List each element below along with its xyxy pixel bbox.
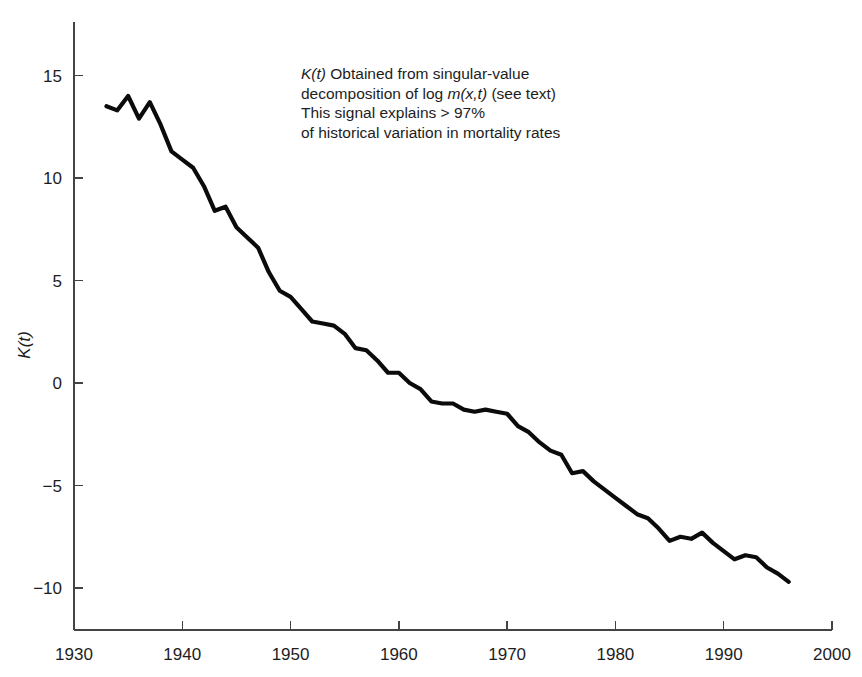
y-tick-label: 5 xyxy=(53,272,62,291)
y-axis-title: K(t) xyxy=(15,331,34,358)
x-tick-label: 2000 xyxy=(813,645,851,664)
annotation-line-2: decomposition of log m(x,t) (see text) xyxy=(301,84,631,104)
x-tick-label: 1960 xyxy=(380,645,418,664)
x-axis: 19301940195019601970198019902000 xyxy=(55,621,851,664)
y-tick-label: 15 xyxy=(43,67,62,86)
annotation-line-2-post: (see text) xyxy=(487,85,556,102)
annotation-line-1-rest: Obtained from singular-value xyxy=(326,65,529,82)
data-series-group xyxy=(106,96,788,582)
y-axis-ticks: 151050−5−10 xyxy=(33,67,83,599)
annotation-line-4: of historical variation in mortality rat… xyxy=(301,123,631,143)
x-tick-label: 1980 xyxy=(597,645,635,664)
annotation-line-1: K(t) Obtained from singular-value xyxy=(301,64,631,84)
y-tick-label: 10 xyxy=(43,169,62,188)
figure-container: 151050−5−10 1930194019501960197019801990… xyxy=(0,0,862,677)
x-tick-label: 1930 xyxy=(55,645,93,664)
y-tick-label: 0 xyxy=(53,374,62,393)
x-tick-label: 1970 xyxy=(488,645,526,664)
x-axis-ticks: 19301940195019601970198019902000 xyxy=(55,621,851,664)
y-tick-label: −10 xyxy=(33,579,62,598)
y-axis-title-group: K(t) xyxy=(15,331,34,358)
y-tick-label: −5 xyxy=(43,477,62,496)
x-tick-label: 1940 xyxy=(163,645,201,664)
x-tick-label: 1950 xyxy=(272,645,310,664)
annotation-line-3: This signal explains > 97% xyxy=(301,103,631,123)
annotation-k-symbol: K(t) xyxy=(301,65,326,82)
x-tick-label: 1990 xyxy=(705,645,743,664)
annotation-m-symbol: m(x,t) xyxy=(447,85,487,102)
y-axis: 151050−5−10 xyxy=(33,22,83,630)
annotation-line-2-pre: decomposition of log xyxy=(301,85,447,102)
series-line-kt xyxy=(106,96,788,582)
chart-annotation: K(t) Obtained from singular-value decomp… xyxy=(301,64,631,142)
